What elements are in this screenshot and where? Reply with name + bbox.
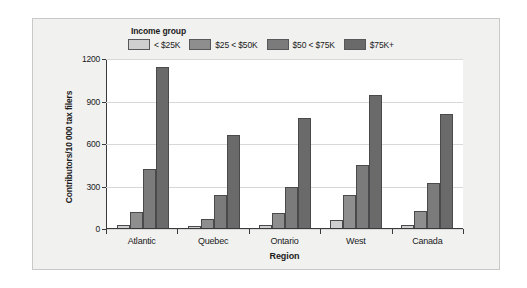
y-axis-tick-label: 1200 — [82, 54, 100, 64]
x-axis-tick — [177, 229, 178, 234]
bar — [401, 225, 414, 228]
y-axis-tick-label: 300 — [86, 182, 100, 192]
y-axis-title-text: Contributors/10 000 tax filers — [64, 91, 74, 204]
bar — [259, 225, 272, 228]
x-axis-title: Region — [106, 251, 463, 261]
bar — [214, 195, 227, 228]
x-axis-ticks: AtlanticQuebecOntarioWestCanada — [106, 229, 463, 253]
bar — [356, 165, 369, 228]
bar-groups — [107, 59, 463, 228]
y-axis-tick-label: 900 — [86, 97, 100, 107]
x-axis-tick-label: Canada — [412, 236, 442, 246]
legend-swatch-icon — [189, 39, 211, 50]
bar — [369, 95, 382, 228]
y-axis-tick — [102, 102, 106, 103]
legend-swatch-icon — [344, 39, 366, 50]
bar — [143, 169, 156, 229]
bar — [330, 220, 343, 229]
x-axis-tick-label: Atlantic — [128, 236, 156, 246]
chart-legend: Income group < $25K $25 < $50K $50 < $75… — [128, 26, 458, 50]
y-axis-tick — [102, 144, 106, 145]
x-axis-tick — [106, 229, 107, 234]
legend-item-label: $75K+ — [370, 40, 394, 50]
legend-item-lt-25k: < $25K — [128, 39, 180, 50]
bar-group-ontario — [259, 59, 311, 228]
bar-group-west — [330, 59, 382, 228]
bar — [272, 213, 285, 228]
legend-item-50k-75k: $50 < $75K — [267, 39, 335, 50]
bar — [427, 183, 440, 228]
legend-swatch-icon — [267, 39, 289, 50]
chart-figure: Income group < $25K $25 < $50K $50 < $75… — [32, 18, 500, 270]
plot-area: 03006009001200 — [106, 59, 463, 229]
legend-swatch-icon — [128, 39, 150, 50]
bar-group-canada — [401, 59, 453, 228]
bar — [227, 135, 240, 229]
y-axis-tick-label: 0 — [95, 224, 100, 234]
bar — [117, 225, 130, 228]
bar — [201, 219, 214, 228]
bar — [130, 212, 143, 228]
bar — [298, 118, 311, 228]
bar — [156, 67, 169, 229]
bar — [188, 226, 201, 228]
bar — [285, 187, 298, 228]
x-axis-tick — [249, 229, 250, 234]
bar-group-quebec — [188, 59, 240, 228]
y-axis-tick-label: 600 — [86, 139, 100, 149]
bar — [440, 114, 453, 228]
y-axis-tick — [102, 59, 106, 60]
bar-group-atlantic — [117, 59, 169, 228]
legend-items: < $25K $25 < $50K $50 < $75K $75K+ — [128, 39, 458, 50]
legend-item-label: $50 < $75K — [293, 40, 335, 50]
y-axis-title: Contributors/10 000 tax filers — [62, 67, 76, 227]
bar — [343, 195, 356, 228]
legend-item-75k-plus: $75K+ — [344, 39, 394, 50]
x-axis-tick-label: Ontario — [270, 236, 298, 246]
legend-item-25k-50k: $25 < $50K — [189, 39, 257, 50]
x-axis-tick-label: Quebec — [198, 236, 228, 246]
legend-title: Income group — [131, 26, 458, 36]
x-axis-tick-label: West — [346, 236, 366, 246]
x-axis-tick — [463, 229, 464, 234]
x-axis-tick — [392, 229, 393, 234]
y-axis-tick — [102, 187, 106, 188]
legend-item-label: $25 < $50K — [215, 40, 257, 50]
bar — [414, 211, 427, 228]
legend-item-label: < $25K — [154, 40, 180, 50]
x-axis-tick — [320, 229, 321, 234]
